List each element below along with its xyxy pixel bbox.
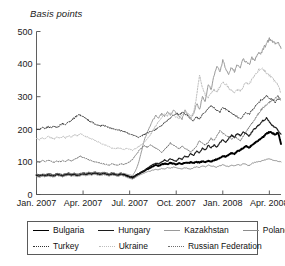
series-line-russian-federation bbox=[37, 95, 282, 165]
legend-label: Kazakhstan bbox=[184, 226, 228, 235]
legend-item-turkey[interactable]: Turkey bbox=[33, 242, 79, 251]
legend-item-poland[interactable]: Poland bbox=[243, 226, 285, 235]
x-tick-label: Apr. 2008 bbox=[250, 198, 285, 208]
legend-item-kazakhstan[interactable]: Kazakhstan bbox=[164, 226, 228, 235]
legend-item-hungary[interactable]: Hungary bbox=[98, 226, 150, 235]
x-tick-label: Jan. 2008 bbox=[203, 198, 243, 208]
x-tick-label: Oct. 2007 bbox=[157, 198, 196, 208]
legend-swatch-icon bbox=[243, 230, 259, 231]
x-tick-label: Apr. 2007 bbox=[64, 198, 103, 208]
legend-swatch-icon bbox=[168, 246, 184, 247]
y-tick-label: 200 bbox=[17, 125, 32, 135]
x-tick-label: Jul. 2007 bbox=[111, 198, 148, 208]
y-tick-label: 500 bbox=[17, 27, 32, 37]
chart-legend: BulgariaHungaryKazakhstanPoland TurkeyUk… bbox=[27, 221, 258, 255]
legend-item-bulgaria[interactable]: Bulgaria bbox=[33, 226, 84, 235]
legend-label: Bulgaria bbox=[53, 226, 84, 235]
x-tick-label: Jan. 2007 bbox=[17, 198, 57, 208]
legend-label: Russian Federation bbox=[188, 242, 262, 251]
x-axis-ticks: Jan. 2007Apr. 2007Jul. 2007Oct. 2007Jan.… bbox=[17, 191, 285, 208]
legend-swatch-icon bbox=[98, 230, 114, 231]
series-line-poland bbox=[37, 159, 282, 179]
legend-row-secondary: TurkeyUkraineRussian Federation bbox=[28, 238, 257, 254]
legend-item-ukraine[interactable]: Ukraine bbox=[99, 242, 148, 251]
y-tick-label: 300 bbox=[17, 92, 32, 102]
legend-label: Hungary bbox=[118, 226, 150, 235]
series-line-kazakhstan bbox=[37, 38, 282, 176]
legend-row-primary: BulgariaHungaryKazakhstanPoland bbox=[28, 222, 257, 238]
legend-swatch-icon bbox=[33, 230, 49, 231]
legend-swatch-icon bbox=[33, 246, 49, 247]
legend-label: Turkey bbox=[53, 242, 79, 251]
data-series-group bbox=[37, 38, 282, 179]
legend-item-russian-federation[interactable]: Russian Federation bbox=[168, 242, 262, 251]
legend-label: Poland bbox=[263, 226, 285, 235]
legend-label: Ukraine bbox=[119, 242, 148, 251]
series-line-bulgaria bbox=[37, 132, 282, 177]
series-line-ukraine bbox=[37, 68, 282, 150]
legend-swatch-icon bbox=[164, 230, 180, 231]
series-line-turkey bbox=[37, 95, 282, 137]
legend-swatch-icon bbox=[99, 246, 115, 247]
y-tick-label: 400 bbox=[17, 59, 32, 69]
y-tick-label: 100 bbox=[17, 157, 32, 167]
chart-container: Basis points 0100200300400500 Jan. 2007A… bbox=[0, 0, 285, 266]
